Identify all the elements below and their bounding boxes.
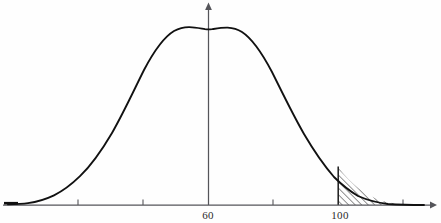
x-tick-label-60: 60 bbox=[202, 209, 214, 221]
x-axis-arrowhead-icon bbox=[430, 202, 437, 209]
bell-curve-figure: 60 100 bbox=[0, 0, 441, 223]
y-axis-arrowhead-icon bbox=[205, 3, 212, 11]
y-axis bbox=[205, 3, 212, 206]
hatch-fill bbox=[330, 160, 430, 208]
bell-curve-path bbox=[8, 27, 424, 205]
x-tick-label-100: 100 bbox=[331, 209, 348, 221]
right-tail-shaded-area bbox=[330, 160, 430, 208]
normal-distribution-chart bbox=[0, 0, 441, 223]
